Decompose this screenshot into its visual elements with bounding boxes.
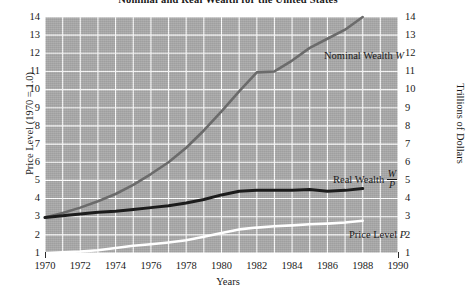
x-axis-end-tick-1970 xyxy=(45,252,46,258)
x-tick-1980: 1980 xyxy=(202,260,242,271)
x-tick-1972: 1972 xyxy=(60,260,100,271)
x-tick-1982: 1982 xyxy=(237,260,277,271)
x-tick-1976: 1976 xyxy=(131,260,171,271)
y-axis-right-title: Trillions of Dollars xyxy=(455,39,466,209)
x-tick-1988: 1988 xyxy=(343,260,383,271)
fraction-numerator: W xyxy=(387,169,397,179)
x-tick-1990: 1990 xyxy=(378,260,418,271)
series-label-nominal-text: Nominal Wealth xyxy=(324,50,393,61)
y-axis-left-title: Price Level (1970 = 1.0) xyxy=(24,39,35,209)
x-axis-end-tick-1990 xyxy=(398,252,399,258)
x-tick-1984: 1984 xyxy=(272,260,312,271)
x-tick-1974: 1974 xyxy=(96,260,136,271)
series-label-price-text: Price Level xyxy=(349,229,397,240)
x-axis-title: Years xyxy=(0,276,456,287)
series-label-real-text: Real Wealth xyxy=(333,174,384,185)
x-tick-1978: 1978 xyxy=(166,260,206,271)
series-label-price-level: Price Level P xyxy=(349,229,406,240)
series-label-nominal-wealth: Nominal Wealth W xyxy=(324,50,404,61)
series-label-price-symbol: P xyxy=(400,229,406,240)
x-tick-1970: 1970 xyxy=(25,260,65,271)
fraction-denominator: P xyxy=(387,179,397,190)
series-label-nominal-symbol: W xyxy=(395,50,404,61)
x-tick-1986: 1986 xyxy=(307,260,347,271)
series-label-real-wealth: Real Wealth W P xyxy=(333,170,397,191)
series-label-real-symbol: W P xyxy=(387,169,397,190)
